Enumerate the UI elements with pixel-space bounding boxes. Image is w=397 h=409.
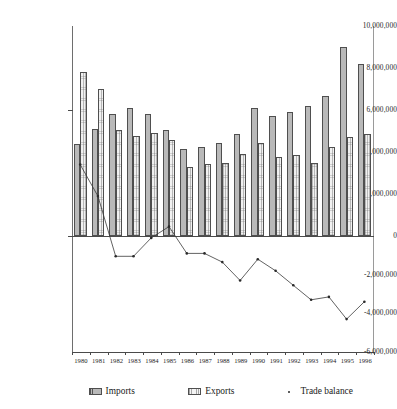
- x-axis-tick-mark: [161, 352, 162, 355]
- bar-exports-1995: [347, 137, 353, 236]
- x-axis-tick-mark: [90, 352, 91, 355]
- legend-item-label: Imports: [106, 385, 135, 397]
- bar-exports-1985: [169, 140, 175, 236]
- bar-exports-1994: [329, 147, 335, 236]
- bar-exports-1987: [205, 164, 211, 236]
- x-axis-tick-label: 1988: [214, 357, 232, 365]
- trade-balance-marker-icon: [283, 388, 296, 395]
- bar-exports-1982: [116, 130, 122, 236]
- bar-exports-1983: [133, 136, 139, 236]
- x-axis-tick-label: 1986: [179, 357, 197, 365]
- x-axis-tick-mark: [374, 352, 375, 355]
- legend-item-exports[interactable]: Exports: [188, 385, 234, 397]
- x-axis-tick-label: 1984: [143, 357, 161, 365]
- x-axis-tick-label: 1994: [321, 357, 339, 365]
- bar-exports-1984: [151, 133, 157, 236]
- x-axis-tick-label: 1993: [303, 357, 321, 365]
- chart-legend: ImportsExportsTrade balance: [72, 385, 374, 401]
- exports-swatch-icon: [188, 388, 201, 395]
- x-axis-tick-label: 1982: [108, 357, 126, 365]
- x-axis-tick-mark: [285, 352, 286, 355]
- bar-exports-1993: [311, 163, 317, 237]
- x-axis-tick-label: 1985: [161, 357, 179, 365]
- x-axis-tick-mark: [250, 352, 251, 355]
- x-axis-tick-mark: [143, 352, 144, 355]
- x-axis-tick-mark: [356, 352, 357, 355]
- bar-exports-1981: [98, 89, 104, 236]
- legend-item-label: Trade balance: [300, 385, 353, 397]
- x-axis-tick-label: 1987: [196, 357, 214, 365]
- x-axis-tick-mark: [72, 352, 73, 355]
- bar-exports-1992: [293, 155, 299, 236]
- x-axis-tick-label: 1995: [338, 357, 356, 365]
- x-axis-tick-mark: [303, 352, 304, 355]
- x-axis-tick-label: 1990: [250, 357, 268, 365]
- legend-item-imports[interactable]: Imports: [89, 385, 135, 397]
- bar-exports-1988: [222, 163, 228, 237]
- legend-item-trade-balance[interactable]: Trade balance: [283, 385, 353, 397]
- x-axis-tick-label: 1980: [72, 357, 90, 365]
- bar-exports-1986: [187, 167, 193, 236]
- x-axis-tick-label: 1981: [90, 357, 108, 365]
- bar-exports-1980: [80, 72, 86, 236]
- legend-item-label: Exports: [205, 385, 234, 397]
- x-axis-tick-mark: [196, 352, 197, 355]
- x-axis-tick-label: 1996: [356, 357, 374, 365]
- x-axis-tick-mark: [179, 352, 180, 355]
- x-axis-tick-mark: [321, 352, 322, 355]
- x-axis-tick-label: 1991: [267, 357, 285, 365]
- x-axis-tick-label: 1992: [285, 357, 303, 365]
- x-axis-tick-mark: [108, 352, 109, 355]
- x-axis-tick-mark: [338, 352, 339, 355]
- bar-exports-1990: [258, 143, 264, 236]
- bar-exports-1996: [364, 134, 370, 236]
- x-axis-tick-mark: [214, 352, 215, 355]
- x-axis-tick-mark: [232, 352, 233, 355]
- x-axis-tick-mark: [125, 352, 126, 355]
- x-axis-tick-mark: [267, 352, 268, 355]
- x-axis-tick-label: 1989: [232, 357, 250, 365]
- imports-swatch-icon: [89, 388, 102, 395]
- bar-exports-1991: [276, 157, 282, 236]
- bars-layer: [72, 26, 374, 352]
- trade-statistics-chart: 10,000,0008,000,0006,000,0004,000,0002,0…: [0, 0, 397, 409]
- x-axis-tick-label: 1983: [125, 357, 143, 365]
- bar-exports-1989: [240, 154, 246, 236]
